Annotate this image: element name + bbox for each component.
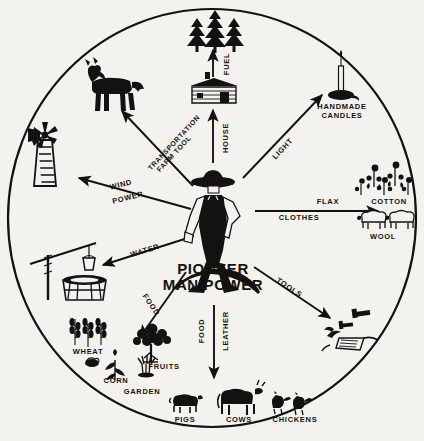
cow-icon [218, 380, 265, 415]
diagram-canvas [0, 0, 424, 441]
sheep-icon [357, 211, 414, 230]
resource-label-chickens: CHICKENS [266, 416, 324, 424]
pig-icon [170, 394, 204, 413]
resource-label-cows: COWS [219, 416, 259, 424]
resource-label-garden: GARDEN [117, 388, 167, 396]
horse-icon [85, 57, 144, 111]
plow-icon [322, 327, 378, 351]
resource-label-wool: WOOL [363, 233, 403, 241]
handmade-line1: HANDMADE [310, 103, 374, 111]
pine-trees-icon [187, 10, 244, 53]
resource-label-handmade-candles: HANDMADE CANDLES [310, 103, 374, 120]
fruit-tree-icon [133, 324, 171, 363]
center-title-line1: PIONEER [153, 261, 273, 277]
spoke-label-fuel: FUEL [223, 47, 231, 81]
resource-label-wheat: WHEAT [65, 348, 111, 356]
handmade-line2: CANDLES [310, 112, 374, 120]
spoke-label-house: HOUSE [222, 117, 230, 159]
cabbage-icon [85, 358, 99, 367]
wheat-icon [70, 319, 106, 347]
hammer-icon [339, 309, 371, 330]
well-icon [30, 243, 106, 300]
spoke-label-clothes: CLOTHES [268, 214, 330, 222]
windmill-icon [28, 122, 58, 186]
pioneer-man-power-diagram: PIONEER MAN POWER FUEL HOUSE LIGHT CLOTH… [0, 0, 424, 441]
spoke-label-food-down: FOOD [198, 312, 206, 350]
resource-label-pigs: PIGS [167, 416, 203, 424]
resource-label-fruits: FRUITS [140, 363, 188, 371]
center-title: PIONEER MAN POWER [153, 261, 273, 293]
resource-label-corn: CORN [97, 377, 135, 385]
cotton-plants-icon [355, 162, 412, 195]
spoke-label-leather: LEATHER [222, 306, 230, 356]
center-title-line2: MAN POWER [153, 277, 273, 293]
resource-label-cotton: COTTON [364, 198, 414, 206]
resource-label-flax: FLAX [311, 198, 345, 206]
